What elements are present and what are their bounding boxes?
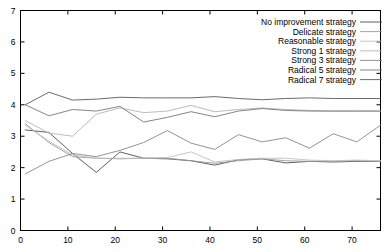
series-lines [25,92,380,174]
x-tick-label: 20 [111,235,121,245]
line-chart: 01234567 010203040506070 No improvement … [0,0,388,252]
y-tick-label: 1 [11,194,16,204]
legend-label-2: Reasonable strategy [278,36,357,46]
x-tick-label: 50 [253,235,263,245]
x-tick-label: 10 [63,235,73,245]
y-tick-label: 2 [11,163,16,173]
x-tick-label: 0 [18,235,23,245]
y-tick-label: 5 [11,68,16,78]
series-line-5 [25,105,380,122]
legend-label-4: Strong 3 strategy [291,55,356,65]
series-line-6 [25,92,380,105]
legend-label-1: Delicate strategy [293,27,357,37]
y-tick-label: 0 [11,226,16,236]
y-tick-label: 4 [11,100,16,110]
legend-label-3: Strong 1 strategy [291,46,356,56]
x-tick-label: 30 [158,235,168,245]
series-line-0 [25,130,380,172]
series-line-4 [25,125,380,174]
legend-label-0: No improvement strategy [261,17,357,27]
y-tick-label: 7 [11,6,16,16]
x-tick-label: 70 [347,235,357,245]
legend-label-5: Radical 5 strategy [288,65,357,75]
chart-canvas: 01234567 010203040506070 No improvement … [0,0,388,252]
x-tick-label: 60 [300,235,310,245]
y-tick-label: 3 [11,131,16,141]
y-tick-label: 6 [11,37,16,47]
legend-label-6: Radical 7 strategy [288,75,357,85]
chart-legend: No improvement strategyDelicate strategy… [261,17,382,85]
x-tick-label: 40 [205,235,215,245]
